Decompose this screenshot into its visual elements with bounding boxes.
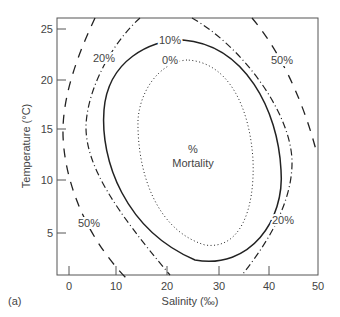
y-tick-20: 20: [41, 74, 53, 86]
y-tick-5: 5: [47, 227, 53, 239]
x-tick-10: 10: [110, 280, 122, 292]
y-tick-15: 15: [41, 123, 53, 135]
y-axis: [57, 29, 66, 233]
contour-chart: 0 10 20 30 40 50 25 20 15 10 5 Salinity …: [0, 0, 340, 317]
contour-label-50-top: 50%: [271, 54, 293, 66]
contour-50-right: [252, 18, 316, 150]
contour-label-20-bottom: 20%: [272, 214, 294, 226]
x-tick-30: 30: [213, 280, 225, 292]
center-label-mortality: Mortality: [172, 157, 214, 169]
contour-label-50-bottom: 50%: [78, 217, 100, 229]
center-label-percent: %: [188, 143, 198, 155]
x-tick-20: 20: [161, 280, 173, 292]
x-tick-40: 40: [263, 280, 275, 292]
y-tick-25: 25: [41, 23, 53, 35]
contour-label-0: 0%: [162, 54, 178, 66]
y-axis-title: Temperature (°C): [20, 104, 32, 188]
x-tick-50: 50: [312, 280, 324, 292]
x-tick-0: 0: [66, 280, 72, 292]
y-tick-10: 10: [41, 174, 53, 186]
panel-label: (a): [8, 295, 21, 307]
contour-label-10: 10%: [159, 34, 181, 46]
x-axis-title: Salinity (‰): [162, 295, 219, 307]
contour-label-20-top: 20%: [93, 52, 115, 64]
